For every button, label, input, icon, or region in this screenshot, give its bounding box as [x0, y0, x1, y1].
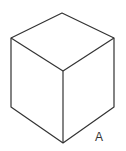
cube-diagram: [0, 0, 126, 151]
vertex-label-a: A: [95, 131, 103, 143]
cube-edge-right-top-to-center: [63, 38, 114, 71]
cube-edge-left-top-to-center: [11, 38, 63, 71]
